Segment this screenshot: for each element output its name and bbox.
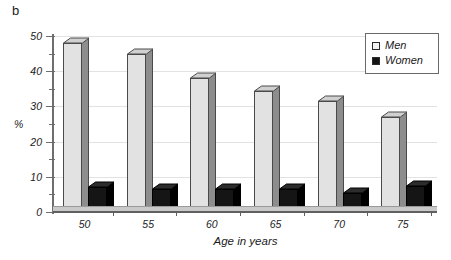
y-tick-major xyxy=(46,71,55,72)
figure-panel-b: b % 01020304050 505560657075 Age in year… xyxy=(0,0,451,260)
x-tick xyxy=(367,212,368,216)
gridline xyxy=(55,142,437,143)
bar-face xyxy=(381,117,400,212)
bar-men-50 xyxy=(63,43,82,212)
x-tick xyxy=(176,212,177,216)
y-tick-label: 0 xyxy=(8,207,42,218)
legend-item-men: Men xyxy=(372,38,432,53)
bar-top xyxy=(254,85,282,92)
y-tick-major xyxy=(46,177,55,178)
x-tick-label: 75 xyxy=(383,219,423,230)
bar-men-65 xyxy=(254,91,273,212)
bar-top xyxy=(406,180,434,187)
legend: Men Women xyxy=(365,33,439,74)
bar-men-55 xyxy=(127,54,146,212)
x-tick-label: 50 xyxy=(65,219,105,230)
bar-top xyxy=(63,37,91,44)
x-axis-line xyxy=(53,211,437,213)
bar-top xyxy=(215,183,243,190)
bar-top xyxy=(88,181,116,188)
legend-item-women: Women xyxy=(372,53,432,68)
y-tick-label: 50 xyxy=(8,31,42,42)
bar-face xyxy=(63,43,82,212)
bar-face xyxy=(318,101,337,212)
men-swatch-icon xyxy=(372,42,380,50)
x-tick-label: 65 xyxy=(256,219,296,230)
bar-top xyxy=(343,187,371,194)
x-tick-label: 60 xyxy=(192,219,232,230)
bar-top xyxy=(318,95,346,102)
bar-face xyxy=(254,91,273,212)
panel-label: b xyxy=(12,4,19,17)
y-tick-label: 40 xyxy=(8,66,42,77)
x-tick xyxy=(304,212,305,216)
bar-top xyxy=(279,183,307,190)
gridline xyxy=(55,106,437,107)
bar-face xyxy=(127,54,146,212)
bar-top xyxy=(381,111,409,118)
women-swatch-icon xyxy=(372,57,380,65)
x-tick xyxy=(240,212,241,216)
x-tick xyxy=(113,212,114,216)
bar-men-70 xyxy=(318,101,337,212)
y-tick-label: 20 xyxy=(8,137,42,148)
y-tick-label: 30 xyxy=(8,101,42,112)
y-tick-label: 10 xyxy=(8,172,42,183)
legend-label-men: Men xyxy=(385,40,406,51)
bar-men-60 xyxy=(190,78,209,212)
y-tick-major xyxy=(46,142,55,143)
x-axis-title: Age in years xyxy=(0,236,451,248)
legend-label-women: Women xyxy=(385,55,423,66)
bar-face xyxy=(190,78,209,212)
y-tick-major xyxy=(46,106,55,107)
gridline xyxy=(55,177,437,178)
bar-top xyxy=(127,48,155,55)
x-tick-label: 70 xyxy=(319,219,359,230)
bar-top xyxy=(152,183,180,190)
y-axis-title: % xyxy=(14,119,23,130)
y-tick-major xyxy=(46,36,55,37)
x-tick-label: 55 xyxy=(128,219,168,230)
bar-top xyxy=(190,72,218,79)
bar-men-75 xyxy=(381,117,400,212)
x-tick xyxy=(431,212,432,216)
